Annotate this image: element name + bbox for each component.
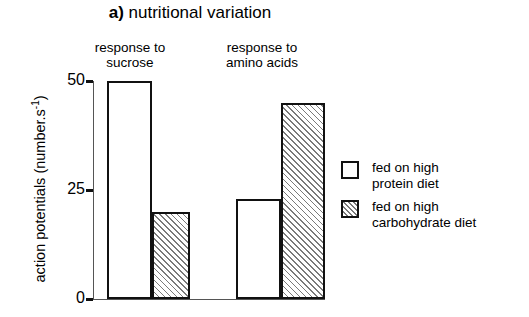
legend-item-carbohydrate-diet[interactable]: fed on high carbohydrate diet xyxy=(341,199,476,231)
plot-area: 50250 xyxy=(93,81,325,299)
y-axis-label-main: action potentials (number.s xyxy=(32,109,48,282)
group-header-sucrose: response to sucrose xyxy=(84,40,176,70)
bar-response-to-sucrose-fed-on-high-protein-diet xyxy=(107,81,152,299)
x-axis-baseline xyxy=(93,299,325,300)
y-tick-label: 25 xyxy=(51,181,85,197)
legend-label-carbohydrate-diet: fed on high carbohydrate diet xyxy=(372,199,476,231)
y-tick-mark xyxy=(86,189,93,192)
legend-item-protein-diet[interactable]: fed on high protein diet xyxy=(341,160,439,192)
group-header-amino-acids: response to amino acids xyxy=(210,40,314,70)
bar-response-to-amino-acids-fed-on-high-protein-diet xyxy=(236,199,281,299)
legend-label-protein-diet: fed on high protein diet xyxy=(372,160,439,192)
figure-panel: a) nutritional variation response to suc… xyxy=(0,0,529,317)
y-tick-label: 50 xyxy=(51,72,85,88)
legend-swatch-open-icon xyxy=(341,161,359,179)
panel-label: a) xyxy=(109,3,124,22)
legend-swatch-hatched-icon xyxy=(341,200,359,218)
bar-response-to-amino-acids-fed-on-high-carbohydrate-diet xyxy=(281,103,325,299)
y-axis-label: action potentials (number.s-1) xyxy=(27,64,49,314)
y-tick-mark xyxy=(86,80,93,83)
y-axis-label-exponent: -1 xyxy=(30,100,41,109)
title-main: nutritional variation xyxy=(129,3,272,22)
y-tick-label: 0 xyxy=(51,290,85,306)
y-axis-spine xyxy=(93,81,94,300)
page-title: a) nutritional variation xyxy=(0,3,380,23)
y-axis-label-close: ) xyxy=(32,95,48,100)
y-tick-mark xyxy=(86,298,93,301)
bar-response-to-sucrose-fed-on-high-carbohydrate-diet xyxy=(152,212,190,299)
